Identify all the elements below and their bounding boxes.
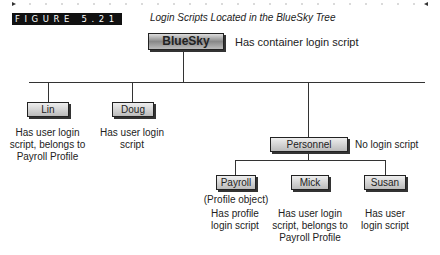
- node-mick[interactable]: Mick: [291, 175, 329, 190]
- connector-payroll: [235, 160, 236, 175]
- note-personnel: No login script: [355, 139, 418, 151]
- connector-personnel: [308, 82, 309, 137]
- note-bluesky: Has container login script: [235, 36, 359, 48]
- node-personnel[interactable]: Personnel: [270, 137, 348, 152]
- dotted-rule: [0, 0, 440, 8]
- figure-title: Login Scripts Located in the BlueSky Tre…: [150, 12, 335, 23]
- note-mick: Has user login script, belongs to Payrol…: [270, 208, 350, 244]
- note-lin: Has user login script, belongs to Payrol…: [5, 127, 90, 163]
- connector-personnel-down: [308, 152, 309, 160]
- node-susan[interactable]: Susan: [364, 175, 406, 190]
- node-payroll[interactable]: Payroll: [216, 175, 256, 190]
- connector-lin: [48, 82, 49, 102]
- connector-susan: [385, 160, 386, 175]
- note-susan: Has user login script: [355, 208, 415, 232]
- connector-doug: [132, 82, 133, 102]
- node-bluesky[interactable]: BlueSky: [148, 33, 224, 50]
- connector-level1-bus: [29, 82, 425, 83]
- note-doug: Has user login script: [100, 127, 164, 151]
- connector-level2-bus: [235, 160, 386, 161]
- note-payroll: Has profile login script: [205, 208, 265, 232]
- connector-root-down: [183, 50, 184, 82]
- note-payroll-type: (Profile object): [195, 194, 277, 206]
- node-doug[interactable]: Doug: [112, 102, 154, 117]
- node-lin[interactable]: Lin: [27, 102, 69, 117]
- figure-label: FIGURE 5.21: [12, 13, 122, 25]
